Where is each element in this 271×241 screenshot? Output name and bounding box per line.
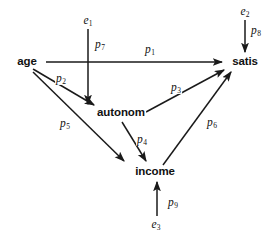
path-label-p6-subscript: 6 (213, 121, 217, 130)
error-term-e1-subscript: 1 (89, 19, 93, 28)
path-label-p8: p8 (250, 25, 262, 37)
path-label-p6: p6 (206, 117, 218, 129)
path-label-p6-symbol: p (207, 116, 213, 128)
path-label-p5-subscript: 5 (66, 122, 70, 131)
path-label-p5-symbol: p (60, 117, 66, 129)
path-label-p7-subscript: 7 (101, 43, 105, 52)
path-label-p2-subscript: 2 (62, 77, 66, 86)
path-label-p3: p3 (170, 82, 182, 94)
path-label-p4: p4 (136, 134, 148, 146)
node-income: income (134, 166, 176, 178)
node-age: age (16, 56, 38, 68)
path-diagram: age autonom income satis e1 e2 e3 p1 p2 … (0, 0, 271, 241)
path-label-p9-subscript: 9 (174, 201, 178, 210)
path-label-p4-subscript: 4 (143, 138, 147, 147)
arrow-autonom-to-satis (146, 70, 224, 112)
path-arrows-layer (0, 0, 271, 241)
error-term-e1: e1 (83, 15, 92, 27)
path-label-p3-symbol: p (171, 81, 177, 93)
path-label-p8-subscript: 8 (257, 29, 261, 38)
path-label-p8-symbol: p (251, 24, 257, 36)
path-label-p1: p1 (144, 44, 156, 56)
error-term-e3: e3 (151, 219, 160, 231)
error-term-e2-subscript: 2 (246, 10, 250, 19)
path-label-p5: p5 (59, 118, 71, 130)
node-satis: satis (231, 56, 259, 68)
path-label-p9: p9 (167, 197, 179, 209)
error-term-e3-subscript: 3 (157, 223, 161, 232)
path-label-p3-subscript: 3 (177, 86, 181, 95)
path-label-p7-symbol: p (95, 38, 101, 50)
path-label-p1-subscript: 1 (151, 48, 155, 57)
path-label-p2: p2 (55, 73, 67, 85)
path-label-p7: p7 (94, 39, 106, 51)
error-term-e2: e2 (240, 6, 249, 18)
path-label-p4-symbol: p (137, 133, 143, 145)
path-label-p1-symbol: p (145, 43, 151, 55)
path-label-p2-symbol: p (56, 72, 62, 84)
node-autonom: autonom (96, 107, 146, 119)
path-label-p9-symbol: p (168, 196, 174, 208)
